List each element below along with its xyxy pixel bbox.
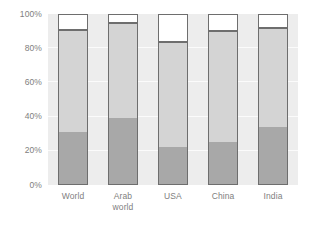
bar-segment-top	[59, 15, 87, 30]
stacked-bar-chart: 0% 20% 40% 60% 80% 100%	[0, 0, 314, 227]
bar-segment-bottom	[109, 118, 137, 184]
bar-usa[interactable]	[158, 14, 188, 185]
bar-group-arab-world	[108, 14, 138, 185]
bar-segment-bottom	[259, 127, 287, 184]
bar-india[interactable]	[258, 14, 288, 185]
bar-group-india	[258, 14, 288, 185]
x-tick-label-india: India	[248, 191, 298, 202]
bar-arab-world[interactable]	[108, 14, 138, 185]
x-tick-label-china: China	[198, 191, 248, 202]
bar-group-china	[208, 14, 238, 185]
y-tick-label-0: 0%	[30, 181, 43, 190]
y-tick-label-80: 80%	[25, 44, 42, 53]
x-tick-label-arab-world: Arabworld	[98, 191, 148, 213]
bar-segment-top	[159, 15, 187, 42]
bar-segment-bottom	[159, 147, 187, 184]
bars-layer	[48, 14, 298, 185]
bar-segment-top	[259, 15, 287, 28]
y-tick-label-20: 20%	[25, 146, 42, 155]
bar-segment-middle	[159, 42, 187, 147]
bar-segment-bottom	[59, 132, 87, 184]
x-tick-label-usa: USA	[148, 191, 198, 202]
y-axis: 0% 20% 40% 60% 80% 100%	[0, 0, 46, 227]
bar-world[interactable]	[58, 14, 88, 185]
bar-segment-middle	[59, 30, 87, 131]
bar-segment-middle	[209, 31, 237, 142]
x-axis: World Arabworld USA China India	[48, 188, 298, 227]
bar-segment-bottom	[209, 142, 237, 184]
bar-segment-middle	[259, 28, 287, 127]
bar-segment-top	[209, 15, 237, 31]
bar-group-usa	[158, 14, 188, 185]
x-tick-label-world: World	[48, 191, 98, 202]
y-tick-label-100: 100%	[20, 10, 42, 19]
bar-china[interactable]	[208, 14, 238, 185]
y-tick-label-40: 40%	[25, 112, 42, 121]
bar-segment-middle	[109, 23, 137, 118]
bar-segment-top	[109, 15, 137, 23]
bar-group-world	[58, 14, 88, 185]
y-tick-label-60: 60%	[25, 78, 42, 87]
